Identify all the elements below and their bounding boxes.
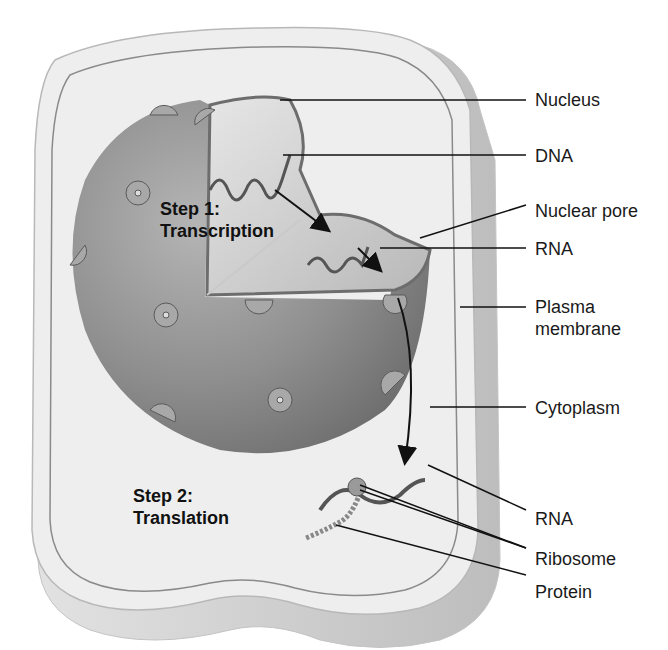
- step-2-title: Step 2:: [133, 485, 229, 507]
- step-2-label: Step 2: Translation: [133, 485, 229, 529]
- diagram: Step 1: Transcription Step 2: Translatio…: [0, 0, 668, 650]
- label-cytoplasm: Cytoplasm: [535, 397, 620, 419]
- label-rna-nucleus: RNA: [535, 238, 573, 260]
- step-1-label: Step 1: Transcription: [160, 198, 274, 242]
- step-2-name: Translation: [133, 507, 229, 529]
- label-plasma-membrane: Plasma membrane: [535, 296, 621, 340]
- label-plasma-membrane-line1: Plasma: [535, 296, 621, 318]
- label-plasma-membrane-line2: membrane: [535, 318, 621, 340]
- step-1-name: Transcription: [160, 220, 274, 242]
- label-nucleus: Nucleus: [535, 89, 600, 111]
- label-rna-cytoplasm: RNA: [535, 508, 573, 530]
- label-dna: DNA: [535, 145, 573, 167]
- step-1-title: Step 1:: [160, 198, 274, 220]
- label-ribosome: Ribosome: [535, 548, 616, 570]
- label-protein: Protein: [535, 581, 592, 603]
- label-nuclear-pore: Nuclear pore: [535, 200, 638, 222]
